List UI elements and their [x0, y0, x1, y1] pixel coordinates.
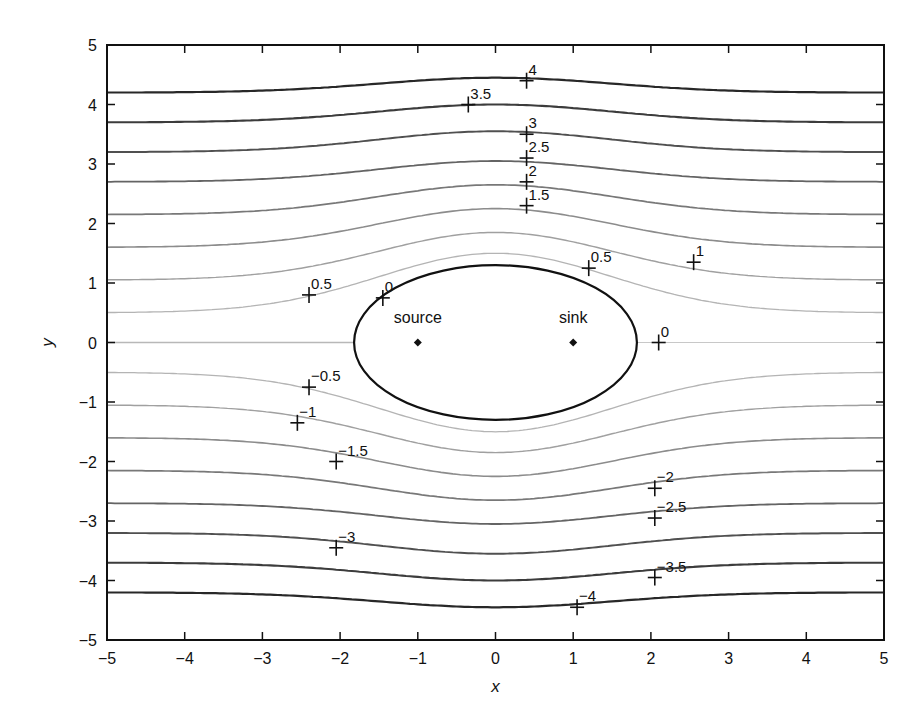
- contour-label: 0.5: [311, 275, 332, 292]
- contour-label: 0: [661, 323, 669, 340]
- x-tick-label: −3: [253, 650, 271, 667]
- x-tick-label: 0: [491, 650, 500, 667]
- streamline: [107, 161, 884, 182]
- x-axis-label: x: [490, 677, 500, 696]
- y-tick-label: 2: [88, 216, 97, 233]
- y-tick-label: 5: [88, 37, 97, 54]
- y-tick-label: −3: [79, 513, 97, 530]
- y-tick-label: −5: [79, 632, 97, 649]
- x-tick-label: −4: [176, 650, 194, 667]
- streamline: [107, 533, 884, 554]
- x-tick-label: 1: [569, 650, 578, 667]
- streamline-contour-plot: 43.532.521.510.500.50−0.5−1−1.5−2−2.5−3−…: [0, 0, 923, 727]
- contour-label: −4: [579, 587, 596, 604]
- contour-label: 1: [696, 242, 704, 259]
- source-label: source: [394, 309, 442, 326]
- contour-label: 0.5: [591, 248, 612, 265]
- streamline: [107, 593, 884, 608]
- x-tick-label: 2: [646, 650, 655, 667]
- y-axis-label: y: [38, 337, 57, 348]
- sink-label: sink: [559, 309, 588, 326]
- contour-label: 3.5: [470, 85, 491, 102]
- contour-label: −0.5: [311, 367, 341, 384]
- contour-label: −2.5: [657, 498, 687, 515]
- y-tick-label: 0: [88, 335, 97, 352]
- streamline: [107, 131, 884, 152]
- rankine-oval: [354, 265, 637, 420]
- streamline: [107, 503, 884, 524]
- x-tick-label: 3: [724, 650, 733, 667]
- contour-label: −2: [657, 468, 674, 485]
- streamline: [107, 105, 884, 123]
- contour-label: −3.5: [657, 558, 687, 575]
- streamline: [107, 78, 884, 93]
- x-tick-label: −1: [409, 650, 427, 667]
- streamline: [107, 209, 884, 248]
- contour-label: 0: [385, 278, 393, 295]
- y-tick-label: 3: [88, 156, 97, 173]
- x-tick-label: −5: [98, 650, 116, 667]
- x-tick-label: −2: [331, 650, 349, 667]
- y-tick-label: 4: [88, 97, 97, 114]
- contour-label: 2: [529, 162, 537, 179]
- contour-label: 3: [529, 114, 537, 131]
- contour-label: −1: [299, 403, 316, 420]
- y-tick-label: 1: [88, 275, 97, 292]
- contour-label: 4: [529, 61, 537, 78]
- streamline: [107, 471, 884, 501]
- x-tick-label: 4: [802, 650, 811, 667]
- contour-label: −1.5: [338, 442, 368, 459]
- y-tick-label: −1: [79, 394, 97, 411]
- contour-label: 1.5: [529, 186, 550, 203]
- contour-label: 2.5: [529, 138, 550, 155]
- dividing-streamline-oval: [354, 265, 637, 420]
- streamline: [107, 185, 884, 215]
- y-tick-label: −2: [79, 454, 97, 471]
- y-tick-label: −4: [79, 573, 97, 590]
- streamline: [107, 438, 884, 477]
- streamline: [107, 563, 884, 581]
- contour-label: −3: [338, 528, 355, 545]
- x-tick-label: 5: [880, 650, 889, 667]
